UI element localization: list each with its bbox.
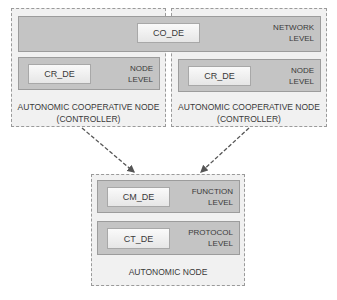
function-level-label: FUNCTION LEVEL xyxy=(192,186,233,208)
label-line: PROTOCOL xyxy=(188,227,233,238)
protocol-level-band: CT_DE PROTOCOL LEVEL xyxy=(97,221,240,255)
function-level-band: CM_DE FUNCTION LEVEL xyxy=(97,180,240,213)
autonomic-node-caption: AUTONOMIC NODE xyxy=(91,266,245,278)
label-line: LEVEL xyxy=(188,238,233,249)
label-line: LEVEL xyxy=(192,197,233,208)
label-line: FUNCTION xyxy=(192,186,233,197)
cm-de-box: CM_DE xyxy=(107,187,170,207)
arrow-left-to-node xyxy=(82,128,134,172)
ct-de-box: CT_DE xyxy=(107,228,170,249)
protocol-level-label: PROTOCOL LEVEL xyxy=(188,227,233,249)
arrow-right-to-node xyxy=(201,128,249,172)
